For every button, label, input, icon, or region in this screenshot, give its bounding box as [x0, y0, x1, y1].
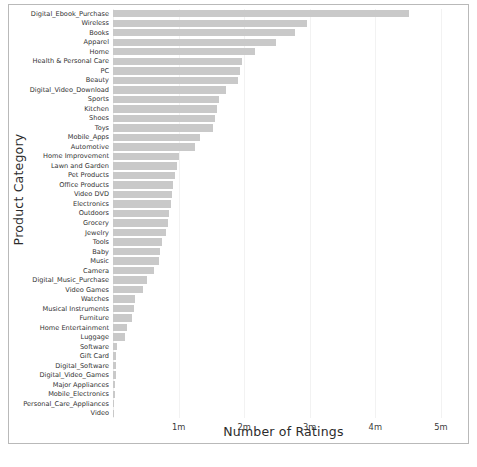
category-label: Beauty: [86, 77, 109, 84]
bar: [113, 210, 169, 217]
bar-row: Digital_Music_Purchase: [113, 276, 454, 283]
bar: [113, 77, 238, 84]
bar-row: Health & Personal Care: [113, 58, 454, 65]
bar-row: Major Appliances: [113, 381, 454, 388]
bar-row: Apparel: [113, 39, 454, 46]
bar: [113, 105, 217, 112]
category-label: Baby: [92, 248, 109, 255]
category-label: Pet Products: [68, 172, 109, 179]
bar: [113, 181, 173, 188]
bar-row: Video DVD: [113, 191, 454, 198]
category-label: Musical Instruments: [43, 305, 109, 312]
bar-row: Mobile_Electronics: [113, 391, 454, 398]
bar-row: Wireless: [113, 20, 454, 27]
category-label: Digital_Video_Games: [39, 372, 109, 379]
bar: [113, 343, 117, 350]
category-label: Camera: [83, 267, 109, 274]
category-label: Apparel: [84, 39, 109, 46]
category-label: Digital_Music_Purchase: [32, 277, 109, 284]
bar-row: Kitchen: [113, 105, 454, 112]
category-label: Major Appliances: [53, 381, 109, 388]
bar: [113, 352, 116, 359]
bar: [113, 371, 116, 378]
category-label: Books: [89, 29, 109, 36]
bar: [113, 29, 295, 36]
category-label: Gift Card: [80, 353, 109, 360]
category-label: Home: [90, 48, 109, 55]
category-label: Video DVD: [74, 191, 109, 198]
category-label: Video Games: [65, 286, 109, 293]
category-label: Outdoors: [79, 210, 109, 217]
bar-row: Home Entertainment: [113, 324, 454, 331]
category-label: PC: [100, 68, 109, 75]
category-label: Furniture: [79, 315, 109, 322]
category-label: Mobile_Apps: [68, 134, 109, 141]
bar: [113, 391, 115, 398]
y-axis-label: Product Category: [11, 120, 26, 260]
bar-row: Shoes: [113, 115, 454, 122]
category-label: Wireless: [81, 20, 109, 27]
bar-row: Home: [113, 48, 454, 55]
category-label: Mobile_Electronics: [48, 391, 109, 398]
category-label: Grocery: [83, 220, 109, 227]
bar-row: Baby: [113, 248, 454, 255]
bar: [113, 96, 219, 103]
bar-row: Tools: [113, 238, 454, 245]
bar-row: Automotive: [113, 143, 454, 150]
category-label: Software: [80, 343, 109, 350]
bar-row: Pet Products: [113, 172, 454, 179]
bar: [113, 324, 127, 331]
bar-row: Personal_Care_Appliances: [113, 400, 454, 407]
category-label: Watches: [81, 296, 109, 303]
category-label: Home Entertainment: [40, 324, 109, 331]
category-label: Personal_Care_Appliances: [23, 400, 109, 407]
bar-row: Electronics: [113, 200, 454, 207]
bar-row: Jewelry: [113, 229, 454, 236]
category-label: Kitchen: [84, 106, 109, 113]
bar-row: Luggage: [113, 333, 454, 340]
bar: [113, 39, 276, 46]
bar-row: Video Games: [113, 286, 454, 293]
bar-row: Musical Instruments: [113, 305, 454, 312]
bar-row: Mobile_Apps: [113, 134, 454, 141]
bar: [113, 134, 200, 141]
bar: [113, 162, 177, 169]
bar: [113, 229, 166, 236]
bar-row: Digital_Video_Games: [113, 371, 454, 378]
bar: [113, 191, 172, 198]
bar: [113, 86, 226, 93]
figure-canvas: Product Category Digital_Ebook_PurchaseW…: [0, 0, 477, 467]
bar: [113, 286, 143, 293]
bar-row: Music: [113, 257, 454, 264]
bar: [113, 267, 154, 274]
bar: [113, 248, 160, 255]
category-label: Digital_Software: [55, 362, 109, 369]
bar: [113, 219, 168, 226]
bar-row: Camera: [113, 267, 454, 274]
bar: [113, 67, 240, 74]
bar-row: Watches: [113, 295, 454, 302]
bar-row: Furniture: [113, 314, 454, 321]
bar-row: Lawn and Garden: [113, 162, 454, 169]
category-label: Music: [90, 258, 109, 265]
bar: [113, 333, 125, 340]
category-label: Automotive: [71, 144, 109, 151]
bar: [113, 314, 132, 321]
bar-row: Sports: [113, 96, 454, 103]
bar: [113, 257, 159, 264]
category-label: Luggage: [81, 334, 109, 341]
bar: [113, 153, 179, 160]
bar-row: Books: [113, 29, 454, 36]
bar-row: Beauty: [113, 77, 454, 84]
bar: [113, 200, 171, 207]
bar-row: Gift Card: [113, 352, 454, 359]
bar: [113, 124, 213, 131]
bar-row: Home Improvement: [113, 153, 454, 160]
bar-row: Digital_Video_Download: [113, 86, 454, 93]
bar-row: Digital_Ebook_Purchase: [113, 10, 454, 17]
bar: [113, 305, 134, 312]
category-label: Office Products: [59, 182, 109, 189]
bar: [113, 10, 409, 17]
category-label: Digital_Ebook_Purchase: [31, 10, 109, 17]
category-label: Lawn and Garden: [51, 163, 109, 170]
